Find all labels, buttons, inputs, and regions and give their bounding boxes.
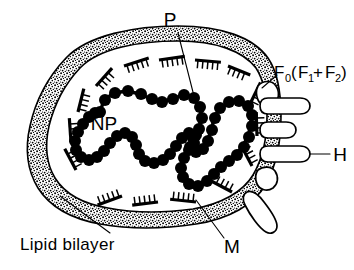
spike-short-lower bbox=[256, 167, 278, 190]
label-p: P bbox=[164, 9, 177, 30]
label-f1-base: F bbox=[298, 63, 308, 82]
virion-diagram-figure: P NP M H Lipid bilayer F 0 ( F 1 + F 2 ) bbox=[0, 0, 354, 270]
label-f2-base: F bbox=[325, 63, 335, 82]
label-h: H bbox=[333, 144, 347, 165]
label-lipid-bilayer: Lipid bilayer bbox=[20, 235, 115, 254]
spike-h-long-3 bbox=[260, 146, 310, 162]
label-np: NP bbox=[91, 113, 117, 134]
virion-svg-canvas: P NP M H Lipid bilayer F 0 ( F 1 + F 2 ) bbox=[0, 0, 354, 270]
label-f-plus: + bbox=[313, 63, 323, 82]
spike-long-1 bbox=[260, 98, 310, 114]
label-f-open-paren: ( bbox=[291, 63, 297, 82]
label-m: M bbox=[224, 236, 240, 257]
label-f0-base: F bbox=[274, 63, 284, 82]
spike-medium-2 bbox=[260, 122, 296, 138]
label-f-close-paren: ) bbox=[341, 63, 347, 82]
